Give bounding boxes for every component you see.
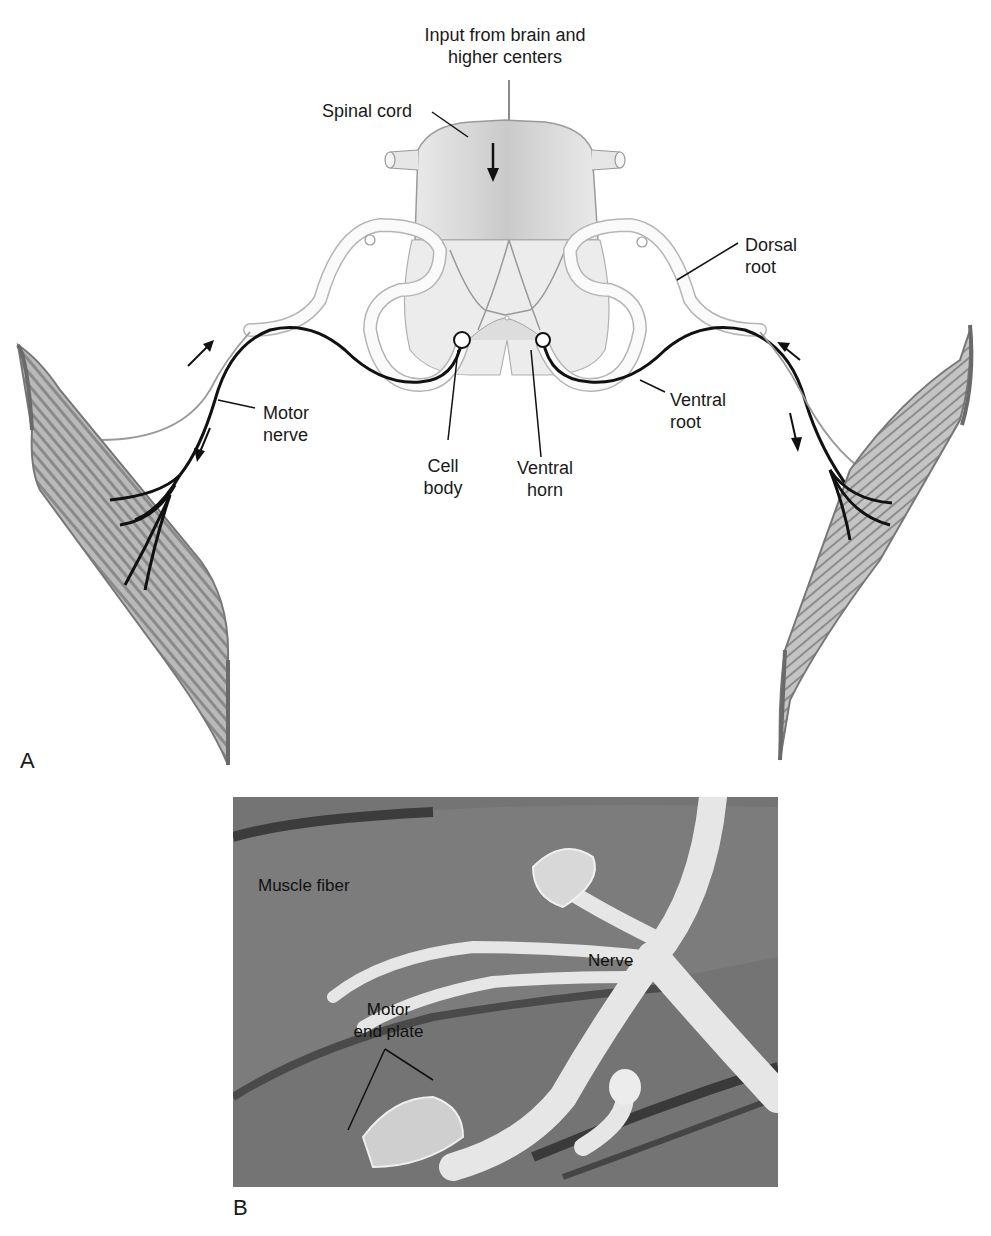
panel-letter-a: A (20, 748, 35, 774)
spinal-cord (385, 120, 625, 375)
label-cell-body: Cell body (413, 455, 473, 499)
label-motor-nerve: Motor nerve (263, 402, 309, 446)
label-input-from-brain: Input from brain and higher centers (400, 24, 610, 68)
label-spinal-cord: Spinal cord (322, 100, 412, 122)
cell-body-left (454, 332, 470, 348)
label-ventral-horn: Ventral horn (505, 457, 585, 501)
panel-a-diagram (0, 0, 991, 780)
label-nerve: Nerve (588, 950, 633, 972)
panel-letter-b: B (233, 1195, 248, 1221)
cell-body-right (536, 333, 550, 347)
arrow-down-icon (194, 448, 205, 462)
label-motor-end-plate: Motor end plate (341, 999, 436, 1043)
label-dorsal-root: Dorsal root (745, 234, 797, 278)
micrograph-art (233, 797, 778, 1187)
label-ventral-root: Ventral root (670, 389, 726, 433)
panel-b-micrograph: Muscle fiber Nerve Motor end plate (233, 797, 778, 1187)
right-muscle (780, 325, 972, 760)
label-muscle-fiber: Muscle fiber (258, 875, 350, 897)
arrow-down-icon (791, 437, 802, 452)
